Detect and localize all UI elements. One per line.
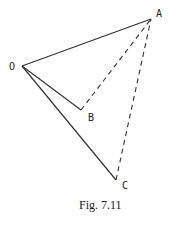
segment-OC bbox=[22, 66, 116, 180]
segment-OA bbox=[22, 19, 151, 66]
figure-caption: Fig. 7.11 bbox=[79, 198, 122, 212]
label-O: O bbox=[9, 61, 15, 72]
dashed-lines bbox=[81, 19, 151, 180]
segment-OB bbox=[22, 66, 81, 110]
label-A: A bbox=[156, 8, 162, 19]
solid-lines bbox=[22, 19, 151, 180]
vector-diagram: O A B C Fig. 7.11 bbox=[0, 0, 171, 225]
label-C: C bbox=[122, 180, 128, 191]
segment-CA bbox=[116, 19, 151, 180]
label-B: B bbox=[88, 112, 94, 123]
segment-BA bbox=[81, 19, 151, 110]
